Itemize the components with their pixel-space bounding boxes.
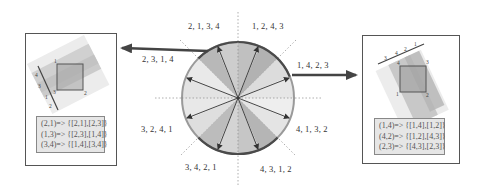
sector-label-top-right: 1, 2, 4, 3 (252, 21, 284, 31)
sector-label-bottom-right: 4, 3, 1, 2 (260, 164, 292, 174)
permutation-diagram: 4 3 1 2 1 3 2 3 4 2 1 4 (0, 0, 482, 194)
mapping-line: (1,3)=> {[2,3],[1,4]} (41, 130, 100, 141)
sector-wheel (182, 42, 294, 154)
right-mapping-box: (1,4)=> {[1,4],[1,2]} (4,2)=> {[1,2],[4,… (374, 118, 445, 155)
sector-label-bottom-left: 3, 4, 2, 1 (185, 162, 217, 172)
mapping-line: (1,4)=> {[1,4],[1,2]} (379, 121, 440, 132)
sector-label-top-left: 2, 1, 3, 4 (188, 21, 220, 31)
sector-label-lower-right: 4, 1, 3, 2 (296, 124, 328, 134)
mapping-line: (2,1)=> {[2,1],[2,3]} (41, 119, 100, 130)
mapping-line: (2,3)=> {[4,3],[2,3]} (379, 142, 440, 153)
arrow-to-left-panel (122, 48, 208, 51)
left-mapping-box: (2,1)=> {[2,1],[2,3]} (1,3)=> {[2,3],[1,… (36, 116, 105, 153)
mapping-line: (4,2)=> {[1,2],[4,3]} (379, 132, 440, 143)
sector-label-upper-right: 1, 4, 2, 3 (297, 60, 329, 70)
sector-label-lower-left: 3, 2, 4, 1 (141, 124, 173, 134)
mapping-line: (3,4)=> {[1,4],[3,4]} (41, 140, 100, 151)
sector-label-upper-left: 2, 3, 1, 4 (142, 54, 174, 64)
